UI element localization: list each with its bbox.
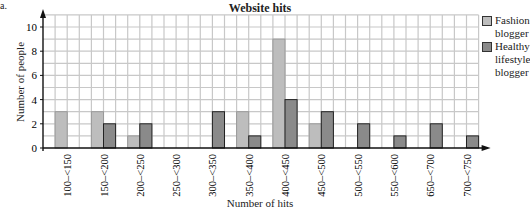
bar [140, 124, 152, 148]
y-tick-label: 2 [32, 118, 38, 130]
legend: Fashion blogger Healthy lifestyle blogge… [481, 14, 530, 79]
x-tick-label: 300–<350 [207, 154, 218, 197]
bar [55, 112, 67, 148]
legend-label: lifestyle [495, 53, 530, 66]
x-tick-label: 400–<450 [280, 154, 291, 197]
x-tick-label: 200–<250 [135, 154, 146, 197]
bar [430, 124, 442, 148]
bar [394, 136, 406, 148]
y-axis-arrow-icon [40, 9, 46, 18]
y-tick-label: 0 [32, 142, 38, 154]
bar [358, 124, 370, 148]
x-axis-arrow-icon [482, 145, 491, 151]
bar [273, 39, 285, 148]
legend-item-fashion: Fashion blogger [481, 14, 530, 40]
bar [91, 112, 103, 148]
x-tick-label: 150–<200 [99, 154, 110, 197]
bar [467, 136, 479, 148]
y-tick-label: 10 [26, 21, 38, 33]
x-tick-label: 100–<150 [62, 154, 73, 197]
x-tick-label: 650–<700 [425, 154, 436, 197]
x-tick-label: 350–<400 [244, 154, 255, 197]
legend-item-healthy: Healthy lifestyle blogger [481, 40, 530, 79]
x-tick-label: 550–<600 [389, 154, 400, 197]
legend-swatch-fashion [482, 16, 492, 26]
bar [249, 136, 261, 148]
bar [104, 124, 116, 148]
x-tick-label: 500–<550 [353, 154, 364, 197]
y-tick-label: 6 [32, 69, 38, 81]
x-tick-label: 700–<750 [462, 154, 473, 197]
y-tick-label: 8 [32, 45, 38, 57]
bar [128, 136, 140, 148]
bar [237, 112, 249, 148]
legend-label: Fashion [495, 14, 530, 27]
legend-label: blogger [495, 66, 530, 79]
legend-label: Healthy [495, 40, 530, 53]
x-tick-label: 250–<300 [171, 154, 182, 197]
y-tick-label: 4 [32, 94, 38, 106]
bar [321, 112, 333, 148]
legend-swatch-healthy [482, 42, 492, 52]
bar [212, 112, 224, 148]
legend-label: blogger [495, 27, 530, 40]
bar [309, 124, 321, 148]
x-tick-label: 450–<500 [316, 154, 327, 197]
bar [285, 100, 297, 148]
